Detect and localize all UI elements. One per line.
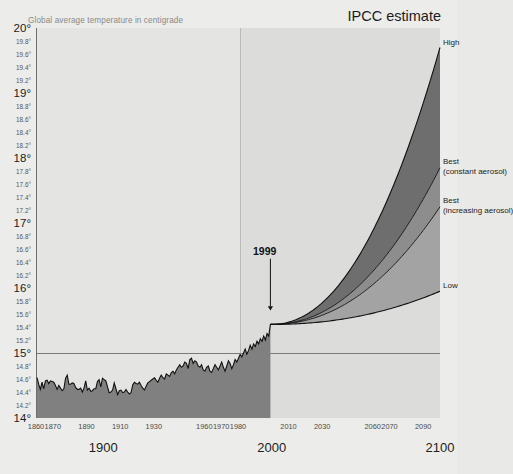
y-tick-18-6: 18.6° [16,116,31,123]
y-tick-19: 19° [14,87,31,99]
y-tick-15-8: 15.8° [16,298,31,305]
y-tick-18-4: 18.4° [16,129,31,136]
x-tick-2070: 2070 [381,422,397,431]
y-tick-14-4: 14.4° [16,389,31,396]
scenario-best-constant-line2: (constant aerosol) [443,167,507,177]
x-tick-2010: 2010 [280,422,296,431]
x-tick-1970: 1970 [213,422,229,431]
y-axis: 14.2°14.4°14.6°14.8°15.2°15.4°15.6°15.8°… [0,28,34,418]
x-tick-2060: 2060 [364,422,380,431]
x-tick-1890: 1890 [78,422,94,431]
scenario-label-best-increasing: Best (increasing aerosol) [443,196,513,216]
y-tick-15-2: 15.2° [16,337,31,344]
y-tick-17-2: 17.2° [16,207,31,214]
x-axis-major-ticks: 190020002100 [36,440,440,462]
scenario-best-increasing-line1: Best [443,196,513,206]
y-tick-20: 20° [14,22,31,34]
y-tick-16-6: 16.6° [16,246,31,253]
x-major-tick-2000: 2000 [257,440,286,455]
y-tick-16-2: 16.2° [16,272,31,279]
x-tick-1960: 1960 [196,422,212,431]
y-tick-16: 16° [14,282,31,294]
annotation-1999-label: 1999 [253,245,276,257]
y-tick-19-2: 19.2° [16,77,31,84]
y-tick-17: 17° [14,217,31,229]
scenario-best-increasing-line2: (increasing aerosol) [443,206,513,216]
historical-fill [37,324,270,418]
y-tick-16-8: 16.8° [16,233,31,240]
y-tick-19-8: 19.8° [16,38,31,45]
y-tick-18-8: 18.8° [16,103,31,110]
y-tick-14-2: 14.2° [16,402,31,409]
projection-bands [270,48,440,325]
scenario-label-high: High [443,38,459,48]
y-tick-17-8: 17.8° [16,168,31,175]
chart-title: IPCC estimate [348,8,441,24]
x-tick-1910: 1910 [112,422,128,431]
annotation-arrow-1999 [268,259,273,311]
x-tick-2030: 2030 [314,422,330,431]
x-axis-minor-ticks: 1860187018901910193019601970198020102030… [36,418,440,438]
scenario-best-constant-line1: Best [443,157,507,167]
x-tick-1870: 1870 [45,422,61,431]
x-tick-2090: 2090 [415,422,431,431]
y-tick-15: 15° [14,347,31,359]
x-tick-1860: 1860 [28,422,44,431]
plot-area [36,28,440,418]
x-major-tick-2100: 2100 [426,440,455,455]
y-tick-17-6: 17.6° [16,181,31,188]
y-tick-16-4: 16.4° [16,259,31,266]
scenario-low-text: Low [443,281,458,290]
arrow-head [268,306,273,310]
x-tick-1930: 1930 [146,422,162,431]
y-tick-15-4: 15.4° [16,324,31,331]
y-tick-14-6: 14.6° [16,376,31,383]
scenario-high-text: High [443,38,459,47]
y-tick-19-6: 19.6° [16,51,31,58]
scenario-label-best-constant: Best (constant aerosol) [443,157,507,177]
y-tick-14-8: 14.8° [16,363,31,370]
y-tick-17-4: 17.4° [16,194,31,201]
y-tick-15-6: 15.6° [16,311,31,318]
scenario-label-low: Low [443,281,458,291]
y-tick-18: 18° [14,152,31,164]
x-major-tick-1900: 1900 [89,440,118,455]
y-tick-19-4: 19.4° [16,64,31,71]
y-tick-18-2: 18.2° [16,142,31,149]
historical-area [37,324,270,418]
x-tick-1980: 1980 [230,422,246,431]
chart-subtitle: Global average temperature in centigrade [28,16,183,25]
chart-curves [37,28,440,418]
